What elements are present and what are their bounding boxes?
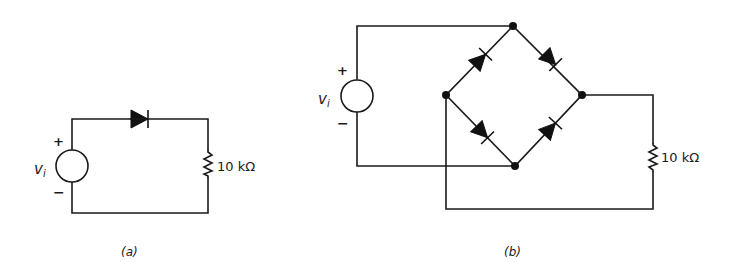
figure-a-plus-sign: + — [53, 134, 64, 149]
figure-b-resistor-icon — [649, 143, 657, 172]
figure-a-resistor-label: 10 kΩ — [217, 159, 255, 174]
figure-b-wires — [357, 26, 653, 209]
figure-b-node-left — [442, 91, 450, 99]
figure-b-voltage-source — [341, 80, 373, 112]
figure-a-diode-icon — [131, 110, 148, 128]
figure-b-plus-sign: + — [337, 63, 348, 78]
figure-a-resistor-icon — [204, 150, 212, 178]
figure-b-node-top — [509, 22, 517, 30]
figure-b-node-bottom — [511, 162, 519, 170]
figure-a-half-wave-circuit: 10 kΩ + − vi (a) — [34, 110, 255, 259]
figure-a-minus-sign: − — [53, 184, 65, 200]
figure-a-voltage-source — [56, 150, 88, 182]
figure-b-caption: (b) — [504, 245, 521, 259]
figure-b-diode-upper-right-icon — [538, 47, 562, 71]
figure-a-source-label: vi — [34, 160, 46, 179]
figure-a-wires — [72, 119, 208, 213]
circuit-diagrams: 10 kΩ + − vi (a) — [0, 0, 733, 262]
figure-b-bridge-rectifier-circuit: 10 kΩ + − vi (b) — [318, 22, 699, 259]
figure-b-minus-sign: − — [337, 115, 349, 131]
figure-b-source-label: vi — [318, 90, 330, 109]
figure-b-resistor-label: 10 kΩ — [661, 150, 699, 165]
figure-b-node-right — [578, 91, 586, 99]
figure-a-caption: (a) — [121, 245, 138, 259]
